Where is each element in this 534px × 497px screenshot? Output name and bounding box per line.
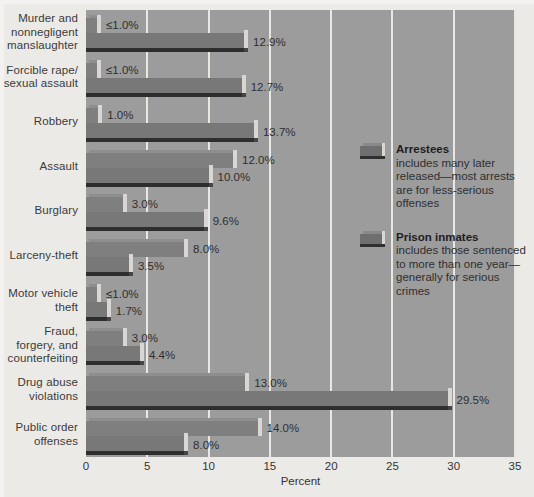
legend-swatch-prison-inmates [360,234,382,244]
bar-prison-inmates: 29.5% [86,391,448,406]
category-label: Fraud,forgery, andcounterfeiting [0,325,78,366]
bar-side-face [97,60,101,78]
x-tick-30: 30 [447,460,460,472]
bar-side-face [254,120,258,138]
bar-side-face [97,15,101,33]
bar-shadow [86,361,140,365]
legend-entry: Arresteesincludes many later released—mo… [360,143,530,211]
bar-value-label: 8.0% [193,439,219,451]
bar-shadow [86,93,242,97]
bar-front-face [86,346,140,361]
bar-value-label: 29.5% [457,394,490,406]
bar-front-face [86,123,254,138]
bar-front-face [86,197,123,212]
bar-front-face [86,63,97,78]
bar-group: 14.0%8.0% [86,412,515,457]
category-label-line: manslaughter [0,39,78,53]
bar-value-label: 14.0% [267,422,300,434]
legend-swatch-arrestees [360,146,382,156]
category-label-line: nonnegligent [0,26,78,40]
bar-prison-inmates: 9.6% [86,212,204,227]
category-label-line: offenses [0,435,78,449]
bar-front-face [86,376,245,391]
category-label-line: forgery, and [0,339,78,353]
category-label-line: Fraud, [0,325,78,339]
bar-value-label: 13.7% [263,126,296,138]
bar-side-face [209,165,213,183]
swatch-side-face [382,231,385,244]
bar-front-face [86,212,204,227]
bar-arrestees: 1.0% [86,108,98,123]
category-label: Burglary [0,204,78,218]
bar-value-label: 3.0% [132,332,158,344]
legend-entry: Prison inmatesincludes those sentenced t… [360,231,530,299]
category-label-line: Burglary [0,204,78,218]
bar-side-face [245,373,249,391]
bar-group: 3.0%4.4% [86,323,515,368]
x-tick-10: 10 [202,460,215,472]
x-tick-5: 5 [144,460,150,472]
bar-group: 1.0%13.7% [86,99,515,144]
bar-chart-figure: ≤1.0%12.9%≤1.0%12.7%1.0%13.7%12.0%10.0%3… [0,0,534,497]
bar-side-face [258,418,262,436]
category-label: Larceny-theft [0,249,78,263]
bar-value-label: 13.0% [254,377,287,389]
category-label-line: Public order [0,421,78,435]
bar-front-face [86,18,97,33]
category-label: Murder andnonnegligentmanslaughter [0,12,78,53]
bar-front-face [86,302,107,317]
bar-arrestees: 13.0% [86,376,245,391]
bar-side-face [242,75,246,93]
bar-side-face [184,433,188,451]
bar-front-face [86,108,98,123]
bar-arrestees: 8.0% [86,242,184,257]
bar-value-label: 10.0% [218,171,251,183]
bar-prison-inmates: 10.0% [86,168,209,183]
bar-front-face [86,257,129,272]
legend-description: includes many later released—most arrest… [396,157,530,211]
category-label-line: Assault [0,160,78,174]
bar-value-label: 9.6% [213,215,239,227]
category-label: Robbery [0,115,78,129]
bar-value-label: 12.7% [251,81,284,93]
bar-side-face [107,299,111,317]
bar-prison-inmates: 12.7% [86,78,242,93]
bar-arrestees: 3.0% [86,331,123,346]
category-label-line: violations [0,390,78,404]
x-tick-0: 0 [83,460,89,472]
bar-value-label: 1.0% [107,109,133,121]
bar-shadow [86,227,204,231]
chart-legend: Arresteesincludes many later released—mo… [360,143,530,298]
category-label-line: Forcible rape/ [0,64,78,78]
bar-value-label: ≤1.0% [106,64,139,76]
bar-side-face [184,239,188,257]
bar-prison-inmates: 12.9% [86,33,244,48]
bar-front-face [86,391,448,406]
category-label: Public orderoffenses [0,421,78,448]
bar-front-face [86,421,258,436]
category-label-line: theft [0,301,78,315]
bar-value-label: 3.0% [132,198,158,210]
legend-title: Prison inmates [396,231,530,245]
bar-side-face [204,209,208,227]
legend-text: Prison inmatesincludes those sentenced t… [396,231,530,299]
bar-front-face [86,242,184,257]
bar-group: ≤1.0%12.9% [86,10,515,55]
category-label: Assault [0,160,78,174]
bar-side-face [97,284,101,302]
swatch-shadow [360,244,385,247]
bar-side-face [123,194,127,212]
bar-prison-inmates: 4.4% [86,346,140,361]
legend-text: Arresteesincludes many later released—mo… [396,143,530,211]
legend-title: Arrestees [396,143,530,157]
legend-description: includes those sentenced to more than on… [396,244,530,298]
bar-value-label: ≤1.0% [106,288,139,300]
bar-arrestees: ≤1.0% [86,18,97,33]
bar-prison-inmates: 8.0% [86,436,184,451]
category-label-line: Robbery [0,115,78,129]
bar-side-face [129,254,133,272]
bar-shadow [86,451,184,455]
bar-side-face [233,150,237,168]
x-tick-15: 15 [263,460,276,472]
bar-shadow [86,183,209,187]
